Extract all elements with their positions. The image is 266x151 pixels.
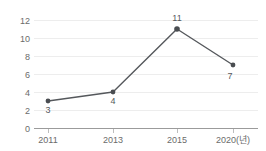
data-point-marker (231, 63, 236, 68)
x-tick-label-2020: 2020(년) (216, 135, 250, 145)
x-axis: 2011 2013 2015 2020(년) (34, 129, 258, 146)
x-tick-label-2011: 2011 (38, 135, 57, 145)
y-tick-label: 8 (25, 52, 30, 62)
gridlines (34, 21, 258, 111)
series-line (48, 29, 233, 101)
y-tick-label: 6 (25, 70, 30, 80)
y-tick-label: 4 (25, 88, 30, 98)
data-point-marker (174, 26, 180, 32)
data-label-2013: 4 (110, 96, 115, 106)
chart-canvas: 12 10 8 6 4 2 0 2011 2013 2015 2020(년) (0, 0, 266, 151)
data-point-marker (46, 99, 51, 104)
data-label-2011: 3 (45, 105, 50, 115)
data-point-marker (111, 90, 116, 95)
y-tick-label: 10 (20, 34, 30, 44)
x-tick-label-2013: 2013 (103, 135, 123, 145)
x-tick-label-2015: 2015 (167, 135, 187, 145)
data-label-2015: 11 (172, 13, 181, 23)
data-labels: 3 4 11 7 (45, 13, 232, 115)
y-tick-label: 0 (25, 124, 30, 134)
y-tick-label: 12 (20, 16, 30, 26)
y-tick-label: 2 (25, 106, 30, 116)
line-chart: 12 10 8 6 4 2 0 2011 2013 2015 2020(년) (0, 0, 266, 151)
data-label-2020: 7 (227, 71, 232, 81)
y-axis: 12 10 8 6 4 2 0 (20, 16, 30, 134)
series-group (46, 26, 236, 103)
